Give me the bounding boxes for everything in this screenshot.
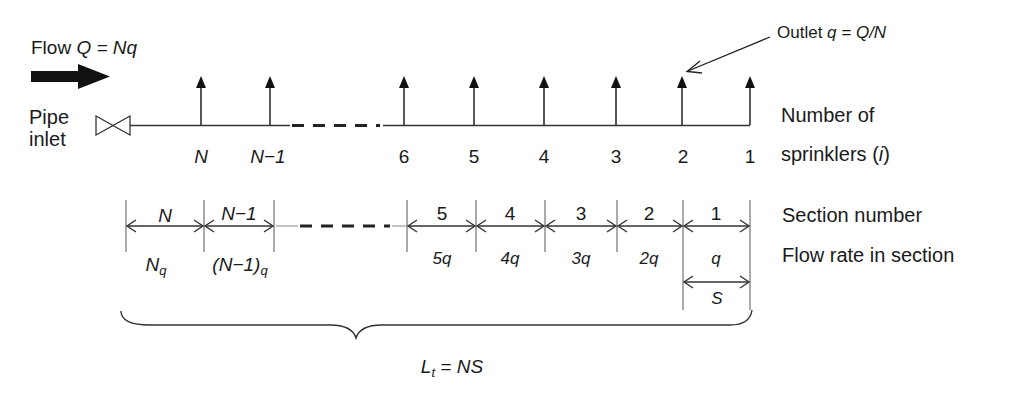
sprinkler-number: 2 — [678, 147, 689, 166]
sprinkler-risers — [201, 83, 750, 125]
sprinkler-number: 5 — [469, 147, 480, 166]
section-number: 3 — [576, 204, 587, 223]
flow-label-text: Flow — [31, 37, 76, 58]
section-number-row-label: Section number — [782, 205, 922, 225]
spacing-label: S — [711, 290, 722, 307]
sprinkler-number: 4 — [539, 147, 550, 166]
pipe-inlet-label-line1: Pipe — [29, 107, 69, 127]
total-length-equation: Lt = NS — [421, 357, 483, 379]
sprinkler-number: N−1 — [250, 147, 285, 166]
sprinkler-number: 3 — [611, 147, 622, 166]
sprinklers-row-label-line1: Number of — [781, 105, 874, 125]
section-number: N−1 — [221, 204, 256, 223]
sprinklers-label-text: sprinklers ( — [781, 143, 879, 165]
pipe-inlet-label-line2: inlet — [29, 129, 66, 149]
outlet-label-text: Outlet — [777, 23, 827, 42]
section-flow-rate: (N−1)q — [212, 255, 267, 277]
valve-icon — [96, 116, 130, 135]
sprinklers-label-suffix: ) — [883, 143, 890, 165]
flow-rate-row-label: Flow rate in section — [782, 245, 954, 265]
outlet-pointer-arrow — [687, 37, 770, 73]
flow-equation: Q = Nq — [76, 37, 137, 58]
section-flow-rate: 2q — [640, 250, 659, 267]
section-number: N — [158, 206, 172, 225]
section-flow-rate: q — [711, 250, 720, 267]
section-flow-rate: 3q — [572, 250, 591, 267]
total-length-expression: = NS — [435, 356, 483, 377]
sprinklers-row-label-line2: sprinklers (i) — [781, 144, 890, 164]
flow-rate-subscript: q — [260, 263, 267, 278]
section-number: 4 — [505, 204, 516, 223]
sprinkler-arrowheads — [196, 76, 755, 88]
section-number: 2 — [644, 204, 655, 223]
flow-direction-arrow — [31, 64, 110, 89]
flow-label: Flow Q = Nq — [31, 38, 137, 57]
section-flow-rate: 5q — [433, 250, 452, 267]
section-number: 1 — [711, 204, 722, 223]
flow-rate-subscript: q — [159, 263, 166, 278]
section-flow-rate: 4q — [501, 250, 520, 267]
sprinkler-number: N — [194, 147, 208, 166]
flow-rate-value: (N−1) — [212, 254, 260, 275]
section-number: 5 — [437, 204, 448, 223]
total-length-symbol: L — [421, 356, 432, 377]
total-length-brace — [121, 310, 752, 338]
flow-rate-value: N — [146, 254, 160, 275]
section-flow-rate: Nq — [146, 255, 167, 277]
sprinkler-number: 1 — [745, 147, 756, 166]
outlet-equation: q = Q/N — [827, 23, 886, 42]
outlet-label: Outlet q = Q/N — [777, 24, 886, 41]
sprinkler-number: 6 — [399, 147, 410, 166]
